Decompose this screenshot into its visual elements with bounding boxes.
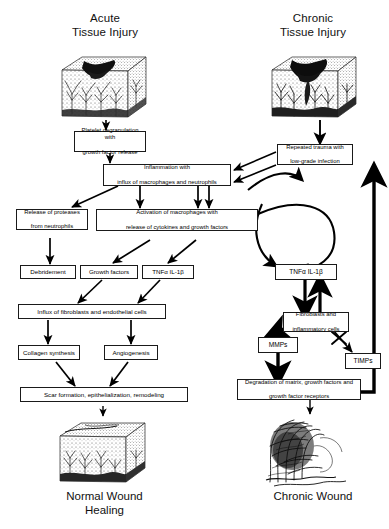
box-activation-line1: Activation of macrophages with [126, 209, 228, 216]
box-proteases-line1: Release of proteases [24, 209, 80, 216]
box-inflammation: Inflammation with influx of macrophages … [103, 164, 231, 186]
box-mmps: MMPs [258, 337, 298, 353]
box-influx-label: Influx of fibroblasts and endothelial ce… [37, 308, 146, 315]
box-influx-fibroblasts-endothelial: Influx of fibroblasts and endothelial ce… [18, 304, 166, 319]
box-fibroblasts-inflammatory-cells: Fibroblasts and inflammatory cells [283, 312, 349, 332]
box-activation-of-macrophages: Activation of macrophages with release o… [96, 209, 258, 231]
box-growth-factors-label: Growth factors [89, 268, 129, 275]
box-inflammation-line1: Inflammation with [117, 164, 217, 171]
box-repeated-trauma-line1: Repeated trauma with [286, 144, 344, 151]
box-fibroblasts-line1: Fibroblasts and [292, 311, 339, 318]
box-tnf-il1b-left: TNFα IL-1β [142, 265, 194, 279]
box-collagen-synthesis: Collagen synthesis [18, 345, 80, 360]
figure-canvas: Acute Tissue Injury Chronic Tissue Injur… [0, 0, 389, 529]
box-scar-formation: Scar formation, epithelialization, remod… [20, 387, 188, 402]
box-tnf-left-label: TNFα IL-1β [152, 268, 184, 275]
box-collagen-label: Collagen synthesis [23, 349, 75, 356]
box-platelet-degranulation: Platelet degranulation with growth facto… [74, 131, 146, 152]
box-tnf-right-label: TNFα IL-1β [289, 268, 323, 276]
box-degradation-line2: growth factor receptors [245, 393, 353, 400]
box-mmps-label: MMPs [269, 341, 288, 349]
box-degradation-of-matrix: Degradation of matrix, growth factors an… [237, 379, 361, 400]
box-activation-line2: release of cytokines and growth factors [126, 224, 228, 231]
box-platelet-line1: Platelet degranulation with [77, 127, 143, 141]
box-repeated-trauma-line2: low-grade infection [286, 158, 344, 165]
box-timps: TIMPs [345, 353, 381, 369]
box-growth-factors: Growth factors [80, 265, 138, 279]
box-inflammation-line2: influx of macrophages and neutrophils [117, 179, 217, 186]
box-angiogenesis-label: Angiogenesis [112, 349, 149, 356]
box-angiogenesis: Angiogenesis [104, 345, 158, 360]
box-release-of-proteases: Release of proteases from neutrophils [16, 209, 88, 230]
box-proteases-line2: from neutrophils [24, 223, 80, 230]
box-repeated-trauma: Repeated trauma with low-grade infection [277, 144, 353, 165]
box-tnf-il1b-right: TNFα IL-1β [275, 264, 337, 280]
box-platelet-line2: growth factor release [77, 149, 143, 156]
box-fibroblasts-line2: inflammatory cells [292, 326, 339, 333]
box-debridement: Debridement [20, 265, 76, 279]
box-timps-label: TIMPs [353, 357, 372, 365]
box-scar-label: Scar formation, epithelialization, remod… [44, 391, 164, 398]
box-debridement-label: Debridement [30, 268, 65, 275]
box-degradation-line1: Degradation of matrix, growth factors an… [245, 379, 353, 386]
